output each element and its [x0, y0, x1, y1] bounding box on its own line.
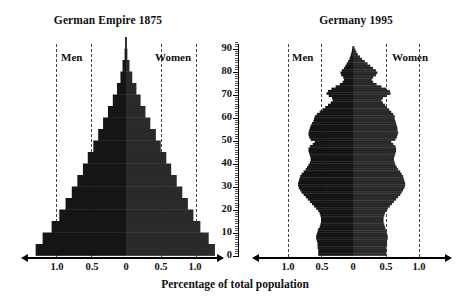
- bar-women-p1-age68: [353, 97, 383, 100]
- bar-women-p0-age45: [126, 141, 161, 153]
- bar-men-p1-age44: [309, 152, 353, 155]
- bar-men-p1-age3: [318, 246, 353, 249]
- y-tick-91: [235, 46, 238, 47]
- y-tick-44: [235, 154, 238, 155]
- y-tick-17: [235, 216, 238, 217]
- bar-men-p1-age69: [329, 95, 353, 98]
- bar-men-p1-age27: [302, 191, 353, 194]
- y-tick-58: [235, 122, 238, 123]
- bar-women-p0-age50: [126, 129, 156, 141]
- bar-men-p1-age50: [311, 138, 353, 141]
- bar-men-p1-age53: [309, 131, 353, 134]
- bar-men-p0-age5: [43, 233, 126, 245]
- bar-women-p1-age81: [353, 67, 373, 70]
- bar-women-p1-age0: [353, 253, 386, 256]
- y-tick-74: [235, 85, 238, 86]
- bar-women-p1-age60: [353, 115, 395, 118]
- y-tick-93: [235, 42, 238, 43]
- bar-men-p1-age60: [315, 115, 353, 118]
- y-tick-69: [235, 97, 238, 98]
- bar-women-p1-age32: [353, 180, 404, 183]
- y-tick-62: [235, 113, 238, 114]
- bar-women-p1-age16: [353, 216, 384, 219]
- bar-men-p1-age90: [352, 46, 353, 49]
- bar-women-p1-age89: [353, 49, 355, 52]
- bar-men-p1-age86: [350, 55, 353, 58]
- bar-men-p0-age80: [123, 60, 126, 72]
- y-tick-66: [235, 104, 238, 105]
- bar-women-p1-age41: [353, 159, 394, 162]
- bar-men-p1-age74: [340, 83, 353, 86]
- bar-women-p1-age51: [353, 136, 397, 139]
- bar-women-p0-age35: [126, 164, 171, 176]
- y-tick-86: [235, 58, 238, 59]
- bar-men-p1-age20: [316, 207, 353, 210]
- y-tick-50: [233, 141, 238, 142]
- bar-women-p0-age65: [126, 95, 141, 107]
- bar-men-p1-age19: [318, 210, 353, 213]
- bar-women-p0-age20: [126, 198, 188, 210]
- bar-men-p1-age81: [344, 67, 353, 70]
- bar-women-p0-age5: [126, 233, 209, 245]
- y-tick-46: [235, 150, 238, 151]
- bar-women-p0-age85: [126, 49, 127, 61]
- bar-men-p1-age23: [310, 200, 353, 203]
- y-tick-8: [235, 237, 238, 238]
- bar-women-p1-age62: [353, 111, 391, 114]
- y-tick-22: [235, 205, 238, 206]
- bar-men-p1-age85: [350, 58, 353, 61]
- y-tick-68: [235, 99, 238, 100]
- xtick-left-4: 1.0: [182, 261, 208, 272]
- bar-men-p1-age31: [298, 182, 353, 185]
- y-tick-0: [233, 256, 238, 257]
- bar-women-p1-age49: [353, 141, 391, 144]
- bar-men-p0-age25: [72, 187, 126, 199]
- y-tick-57: [235, 124, 238, 125]
- bar-men-p0-age70: [117, 83, 126, 95]
- bar-men-p1-age34: [300, 175, 353, 178]
- y-tick-63: [235, 111, 238, 112]
- bar-men-p1-age67: [333, 99, 353, 102]
- bar-women-p1-age73: [353, 85, 381, 88]
- bar-men-p1-age87: [351, 53, 353, 56]
- bar-women-p1-age37: [353, 168, 398, 171]
- y-tick-label-0: 0: [214, 249, 232, 260]
- bar-women-p1-age36: [353, 170, 400, 173]
- bar-women-p1-age54: [353, 129, 397, 132]
- bar-men-p1-age21: [314, 205, 353, 208]
- bar-women-p1-age65: [353, 104, 385, 107]
- bar-men-p1-age10: [318, 230, 353, 233]
- xtick-right-2: 0: [340, 261, 366, 272]
- y-tick-87: [235, 55, 238, 56]
- bar-men-p1-age82: [345, 65, 353, 68]
- bar-men-p1-age77: [343, 76, 353, 79]
- bar-men-p0-age65: [113, 95, 126, 107]
- bar-women-p1-age22: [353, 203, 392, 206]
- y-tick-label-10: 10: [214, 226, 232, 237]
- xtick-left-0: 1.0: [44, 261, 70, 272]
- bar-men-p1-age2: [318, 249, 353, 252]
- y-tick-15: [235, 221, 238, 222]
- bar-men-p0-age50: [98, 129, 126, 141]
- y-tick-81: [235, 69, 238, 70]
- y-tick-59: [235, 120, 238, 121]
- bar-men-p1-age63: [322, 108, 353, 111]
- bar-men-p1-age40: [310, 161, 353, 164]
- bar-men-p1-age83: [347, 62, 353, 65]
- bar-men-p1-age45: [309, 150, 353, 153]
- bar-women-p0-age40: [126, 152, 166, 164]
- y-tick-90: [233, 49, 238, 50]
- bar-women-p1-age33: [353, 177, 404, 180]
- y-tick-4: [235, 246, 238, 247]
- y-tick-72: [235, 90, 238, 91]
- bar-women-p1-age46: [353, 147, 396, 150]
- x-axis-right-arrow-start: [252, 254, 259, 262]
- xtick-right-3: 0.5: [373, 261, 399, 272]
- y-tick-6: [235, 242, 238, 243]
- population-pyramid-figure: German Empire 1875 Germany 1995 Men Wome…: [0, 0, 470, 301]
- y-tick-77: [235, 78, 238, 79]
- bar-men-p1-age26: [304, 193, 353, 196]
- bar-women-p1-age57: [353, 122, 396, 125]
- y-tick-71: [235, 92, 238, 93]
- bar-women-p1-age61: [353, 113, 393, 116]
